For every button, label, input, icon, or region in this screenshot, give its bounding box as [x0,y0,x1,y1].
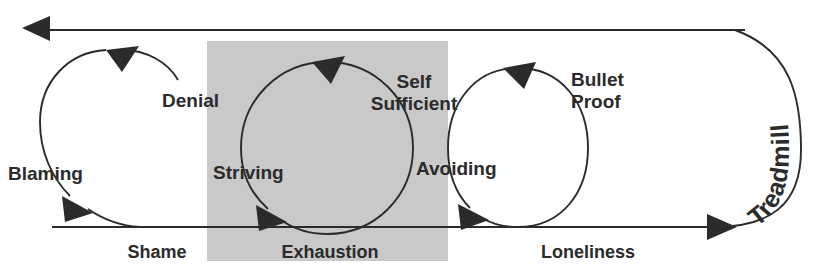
diagram-canvas: Denial Blaming Self Sufficient Striving … [0,0,822,269]
treadmill-label: Treadmill [742,123,794,231]
cycle-label-bullet-proof-line1: Bullet [571,69,624,90]
cycle-label-bullet-proof-line2: Proof [571,91,621,112]
cycle-label-blaming: Blaming [8,163,83,184]
outer-loop-left-arrow-icon [22,16,50,41]
cycle3-circle-left [448,68,518,208]
stage-label-loneliness: Loneliness [541,242,635,262]
cycle-label-self-sufficient-line2: Sufficient [371,93,458,114]
cycle-label-avoiding: Avoiding [416,158,497,179]
outer-loop-right-arrow-icon [707,214,737,240]
cycle1-arc-lower [88,209,140,227]
cycle1-top-arrow-icon [106,46,139,72]
treadmill-label-textpath: Treadmill [742,123,794,231]
stage-label-exhaustion: Exhaustion [281,242,378,262]
cycle-label-self-sufficient-line1: Self [397,71,433,92]
stage-label-shame: Shame [127,242,186,262]
cycle-label-denial: Denial [162,90,219,111]
cycle3-top-arrow-icon [503,62,536,89]
treadmill-cycle-diagram: Denial Blaming Self Sufficient Striving … [0,0,822,269]
cycle-label-striving: Striving [213,162,284,183]
